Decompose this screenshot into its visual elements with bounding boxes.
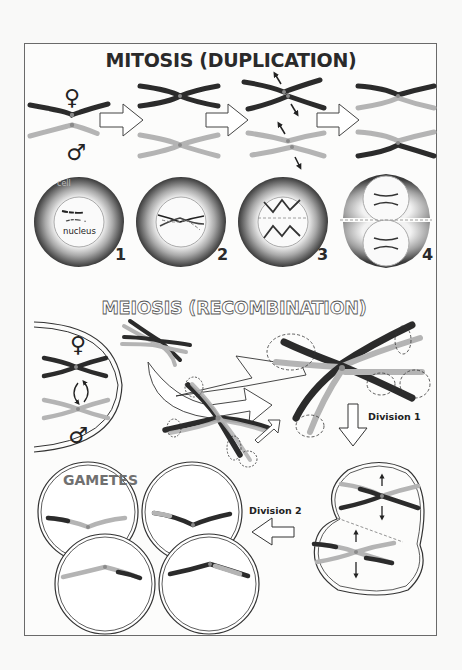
down-arrow bbox=[339, 404, 367, 446]
gametes-label: GAMETES bbox=[63, 472, 138, 488]
right-arrow bbox=[206, 104, 248, 136]
male-symbol: ♂ bbox=[68, 423, 88, 448]
meiosis-title: MEIOSIS (RECOMBINATION) bbox=[101, 298, 366, 318]
mitosis-cell-4: 4 bbox=[340, 174, 433, 268]
meiosis-synapsis-chromosomes bbox=[122, 321, 190, 365]
stage-number: 1 bbox=[115, 245, 126, 264]
gamete-cell bbox=[55, 534, 155, 634]
stage-number: 4 bbox=[422, 245, 433, 264]
cell-label: cell bbox=[57, 179, 71, 188]
meiosis-parent-cell: ♀ ♂ bbox=[34, 322, 122, 452]
right-arrow bbox=[100, 104, 143, 136]
diagram-canvas: MITOSIS (DUPLICATION) ♀ ♂ bbox=[0, 0, 462, 670]
left-arrow bbox=[252, 518, 294, 545]
centromere bbox=[70, 113, 74, 117]
division-1-label: Division 1 bbox=[368, 411, 421, 422]
stage-number: 2 bbox=[217, 245, 228, 264]
mitosis-cell-1: cell nucleus 1 bbox=[34, 177, 126, 267]
male-symbol: ♂ bbox=[66, 140, 86, 165]
gamete-cell bbox=[159, 534, 259, 634]
mitosis-title: MITOSIS (DUPLICATION) bbox=[106, 49, 357, 71]
division-2-label: Division 2 bbox=[249, 505, 302, 516]
centromere bbox=[70, 123, 74, 127]
mitosis-cell-3: 3 bbox=[238, 177, 328, 267]
mitosis-stage1-chromosomes: ♀ ♂ bbox=[30, 85, 108, 165]
paternal-chromosome bbox=[30, 125, 108, 138]
meiosis-dividing-cell bbox=[314, 463, 424, 596]
stage-number: 3 bbox=[317, 245, 328, 264]
mitosis-cell-2: 2 bbox=[136, 177, 228, 267]
mitosis-stage3-chromosomes bbox=[244, 74, 324, 167]
nucleus-label: nucleus bbox=[63, 226, 96, 236]
mitosis-stage4-chromosomes bbox=[358, 86, 434, 156]
curved-arrow bbox=[148, 362, 272, 424]
female-symbol: ♀ bbox=[70, 332, 86, 357]
female-symbol: ♀ bbox=[64, 85, 80, 110]
